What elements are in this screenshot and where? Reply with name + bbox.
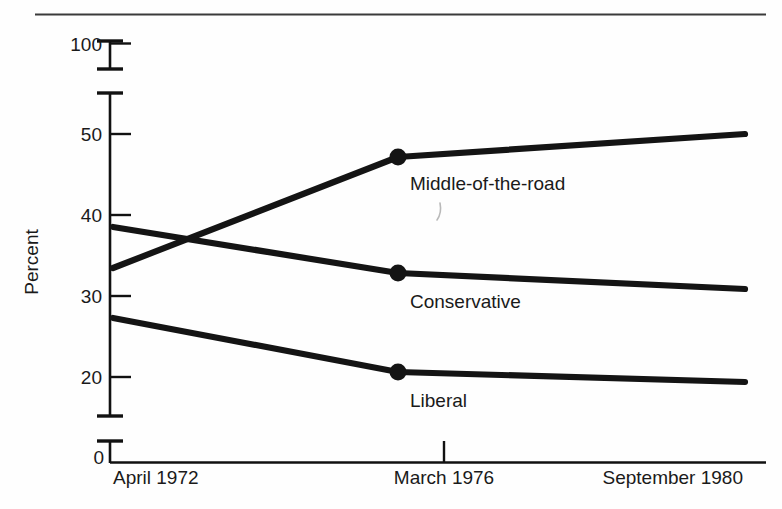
chart-page: 100 50 40 30 20 0 Percent April 1972 Mar… — [0, 0, 782, 509]
series-line-middle-of-the-road — [113, 134, 745, 268]
series-marker-middle-of-the-road — [390, 149, 407, 166]
x-tick-label-march-1976: March 1976 — [394, 467, 494, 488]
x-tick-label-september-1980: September 1980 — [603, 467, 744, 488]
series-label-conservative: Conservative — [410, 291, 521, 312]
series-marker-conservative — [390, 265, 407, 282]
series-label-middle-of-the-road: Middle-of-the-road — [410, 173, 565, 194]
series-line-liberal — [113, 318, 745, 382]
series-line-conservative — [113, 227, 745, 289]
series-label-liberal: Liberal — [410, 390, 467, 411]
y-tick-label-0: 0 — [93, 447, 104, 468]
scan-artifact-mark — [437, 203, 441, 220]
y-tick-label-50: 50 — [81, 124, 102, 145]
line-chart: 100 50 40 30 20 0 Percent April 1972 Mar… — [0, 0, 782, 509]
y-tick-label-40: 40 — [81, 205, 102, 226]
x-tick-label-april-1972: April 1972 — [113, 467, 199, 488]
y-axis-title: Percent — [21, 229, 42, 295]
y-tick-label-100: 100 — [70, 34, 102, 55]
y-tick-label-30: 30 — [81, 286, 102, 307]
series-marker-liberal — [390, 364, 407, 381]
y-tick-label-20: 20 — [81, 367, 102, 388]
